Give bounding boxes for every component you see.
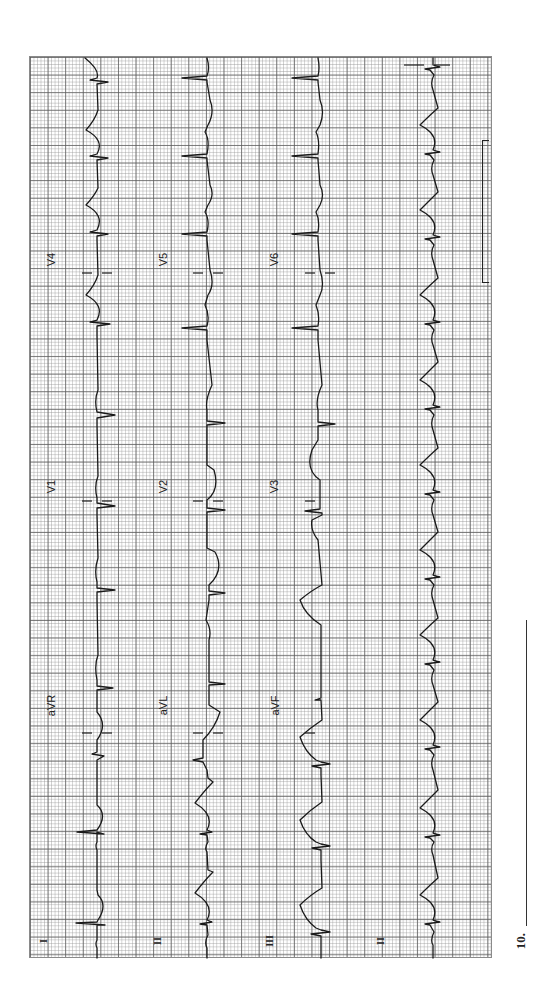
lead-label-V4: V4: [46, 253, 57, 266]
lead-label-V1: V1: [46, 480, 57, 493]
lead-label-V6: V6: [269, 253, 280, 266]
lead-label-aVF: aVF: [270, 695, 281, 715]
calibration-bracket: [482, 140, 489, 283]
lead-label-V2: V2: [158, 480, 169, 493]
question-number: 10.: [513, 930, 529, 952]
trace-row-4: [420, 58, 440, 958]
lead-label-aVR: aVR: [46, 695, 57, 716]
trace-row-2: [182, 58, 225, 958]
lead-label-II: II: [153, 937, 163, 945]
lead-separators: [82, 65, 450, 733]
trace-row-1: [76, 58, 115, 958]
lead-label-aVL: aVL: [158, 696, 169, 716]
lead-label-I: I: [39, 939, 49, 943]
trace-row-3: [292, 58, 335, 958]
lead-label-V5: V5: [158, 253, 169, 266]
ecg-traces: [0, 0, 534, 998]
answer-line[interactable]: [526, 620, 527, 926]
lead-label-II-rhythm: II: [376, 937, 386, 945]
lead-label-III: III: [265, 935, 275, 947]
lead-label-V3: V3: [269, 480, 280, 493]
